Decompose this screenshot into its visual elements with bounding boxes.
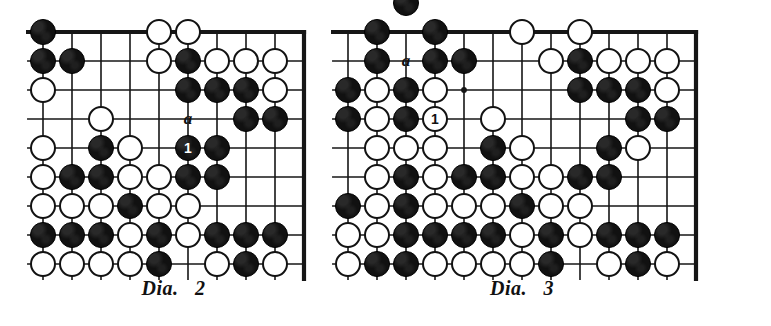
black-stone[interactable]	[30, 48, 56, 74]
white-stone[interactable]	[335, 251, 361, 277]
white-stone[interactable]	[364, 135, 390, 161]
white-stone[interactable]	[567, 193, 593, 219]
white-stone[interactable]	[204, 48, 230, 74]
white-stone[interactable]	[88, 193, 114, 219]
black-stone[interactable]	[364, 251, 390, 277]
black-stone[interactable]	[262, 106, 288, 132]
white-stone[interactable]	[117, 251, 143, 277]
white-stone[interactable]	[422, 135, 448, 161]
black-stone[interactable]	[625, 106, 651, 132]
white-stone[interactable]	[451, 251, 477, 277]
black-stone[interactable]	[393, 106, 419, 132]
black-stone[interactable]	[596, 77, 622, 103]
black-stone[interactable]	[538, 251, 564, 277]
black-stone[interactable]	[393, 77, 419, 103]
white-stone[interactable]	[146, 48, 172, 74]
black-stone[interactable]	[654, 222, 680, 248]
white-stone[interactable]	[30, 77, 56, 103]
black-stone[interactable]	[117, 193, 143, 219]
white-stone[interactable]	[364, 193, 390, 219]
white-stone[interactable]	[30, 251, 56, 277]
black-stone[interactable]	[480, 222, 506, 248]
black-stone[interactable]	[204, 77, 230, 103]
white-stone[interactable]	[538, 164, 564, 190]
go-board-dia-3[interactable]: 1a	[331, 0, 713, 281]
black-stone[interactable]	[59, 48, 85, 74]
white-stone[interactable]	[596, 251, 622, 277]
black-stone[interactable]	[59, 164, 85, 190]
white-stone[interactable]	[335, 222, 361, 248]
black-stone[interactable]	[596, 135, 622, 161]
white-stone[interactable]	[146, 19, 172, 45]
go-board-dia-2[interactable]: 1a	[26, 0, 321, 281]
black-stone[interactable]	[335, 77, 361, 103]
white-stone[interactable]	[451, 193, 477, 219]
black-stone[interactable]	[393, 193, 419, 219]
white-stone[interactable]	[233, 48, 259, 74]
black-stone[interactable]	[596, 222, 622, 248]
white-stone[interactable]	[146, 193, 172, 219]
white-stone[interactable]	[480, 251, 506, 277]
black-stone[interactable]	[451, 48, 477, 74]
white-stone[interactable]	[509, 251, 535, 277]
black-stone[interactable]	[233, 222, 259, 248]
black-stone[interactable]	[480, 135, 506, 161]
black-stone[interactable]	[233, 251, 259, 277]
black-stone[interactable]	[422, 222, 448, 248]
black-stone[interactable]	[625, 77, 651, 103]
black-stone[interactable]	[422, 48, 448, 74]
black-stone[interactable]	[204, 222, 230, 248]
black-stone[interactable]	[364, 19, 390, 45]
white-stone[interactable]	[422, 77, 448, 103]
white-stone[interactable]	[204, 251, 230, 277]
white-stone[interactable]	[480, 193, 506, 219]
black-stone[interactable]	[175, 77, 201, 103]
white-stone[interactable]	[364, 77, 390, 103]
black-stone[interactable]	[233, 106, 259, 132]
white-stone[interactable]	[364, 106, 390, 132]
white-stone[interactable]	[88, 251, 114, 277]
black-stone[interactable]	[538, 222, 564, 248]
white-stone[interactable]	[422, 164, 448, 190]
black-stone[interactable]	[175, 164, 201, 190]
white-stone[interactable]	[625, 48, 651, 74]
white-stone[interactable]	[30, 164, 56, 190]
white-stone[interactable]	[567, 222, 593, 248]
black-stone[interactable]	[146, 251, 172, 277]
black-stone[interactable]	[88, 164, 114, 190]
black-stone[interactable]	[451, 222, 477, 248]
black-stone[interactable]	[567, 48, 593, 74]
black-stone[interactable]	[567, 164, 593, 190]
black-stone[interactable]	[30, 19, 56, 45]
black-stone[interactable]	[393, 251, 419, 277]
white-stone[interactable]	[538, 193, 564, 219]
white-stone[interactable]	[117, 164, 143, 190]
black-stone[interactable]	[654, 106, 680, 132]
white-stone[interactable]	[117, 135, 143, 161]
white-stone[interactable]	[30, 135, 56, 161]
white-stone[interactable]	[146, 164, 172, 190]
white-stone[interactable]	[625, 135, 651, 161]
white-stone[interactable]	[117, 222, 143, 248]
black-stone[interactable]	[625, 251, 651, 277]
black-stone[interactable]	[596, 164, 622, 190]
white-stone[interactable]	[509, 135, 535, 161]
black-stone[interactable]	[335, 106, 361, 132]
white-stone[interactable]	[30, 193, 56, 219]
white-stone[interactable]	[59, 193, 85, 219]
white-stone[interactable]	[654, 251, 680, 277]
black-stone[interactable]	[335, 193, 361, 219]
black-stone[interactable]	[567, 77, 593, 103]
white-stone[interactable]	[175, 193, 201, 219]
white-stone[interactable]	[175, 19, 201, 45]
black-stone[interactable]	[509, 193, 535, 219]
white-stone[interactable]	[262, 48, 288, 74]
black-stone[interactable]	[59, 222, 85, 248]
white-stone[interactable]	[422, 251, 448, 277]
white-stone[interactable]	[175, 222, 201, 248]
white-stone[interactable]	[480, 106, 506, 132]
black-stone[interactable]	[393, 164, 419, 190]
black-stone[interactable]	[88, 135, 114, 161]
black-stone[interactable]	[30, 222, 56, 248]
white-stone[interactable]	[654, 48, 680, 74]
